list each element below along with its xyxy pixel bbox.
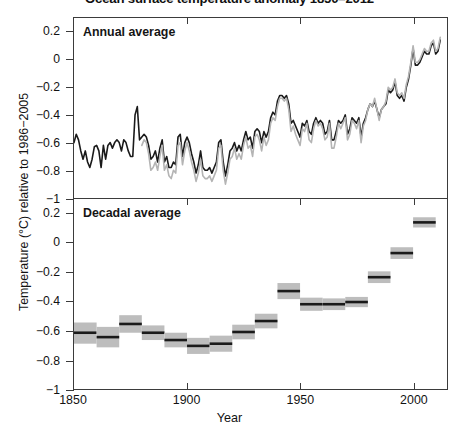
x-axis-tick — [300, 17, 301, 24]
y-axis-tick-label: −0.2 — [0, 80, 60, 94]
chart-title: Ocean surface temperature anomaly 1850–2… — [0, 0, 459, 6]
x-axis-tick — [414, 198, 415, 205]
x-axis-tick — [73, 198, 74, 205]
y-axis-tick — [66, 115, 74, 116]
x-axis-tick — [300, 383, 301, 390]
x-axis-tick — [300, 198, 301, 205]
x-axis-tick — [187, 383, 188, 390]
y-axis-tick — [66, 242, 74, 243]
y-axis-tick — [66, 213, 74, 214]
x-axis-tick — [73, 17, 74, 24]
y-axis-tick — [66, 390, 74, 391]
annual-average-plot — [74, 18, 447, 198]
annual-series-dataset-light — [142, 37, 440, 184]
x-axis-tick-label: 1900 — [157, 393, 217, 407]
y-axis-tick-label: −1 — [0, 192, 60, 206]
y-axis-tick-label: 0.2 — [0, 206, 60, 220]
panel-annual-caption: Annual average — [83, 25, 175, 39]
y-axis-tick-label: 0 — [0, 235, 60, 249]
x-axis-tick — [414, 17, 415, 24]
y-axis-tick — [66, 361, 74, 362]
ocean-temperature-anomaly-figure: Ocean surface temperature anomaly 1850–2… — [0, 0, 459, 432]
x-axis-tick — [414, 383, 415, 390]
x-axis-tick — [187, 17, 188, 24]
x-axis-tick-label: 2000 — [384, 393, 444, 407]
y-axis-tick — [66, 272, 74, 273]
decadal-average-plot — [74, 199, 447, 389]
panel-decadal-average: Decadal average — [73, 198, 448, 390]
x-axis-label: Year — [0, 411, 459, 425]
y-axis-tick-label: −0.6 — [0, 136, 60, 150]
y-axis-tick-label: 0 — [0, 52, 60, 66]
y-axis-tick — [66, 171, 74, 172]
x-axis-tick — [187, 198, 188, 205]
y-axis-tick-label: −0.4 — [0, 294, 60, 308]
y-axis-tick-label: −0.2 — [0, 265, 60, 279]
y-axis-tick-label: −0.6 — [0, 324, 60, 338]
x-axis-tick — [73, 383, 74, 390]
y-axis-tick-label: 0.2 — [0, 24, 60, 38]
y-axis-tick — [66, 87, 74, 88]
x-axis-tick-label: 1850 — [43, 393, 103, 407]
panel-annual-average: Annual average — [73, 17, 448, 199]
y-axis-tick-label: −0.8 — [0, 164, 60, 178]
x-axis-tick-label: 1950 — [270, 393, 330, 407]
annual-series-dataset-dark — [74, 40, 440, 176]
y-axis-tick — [66, 59, 74, 60]
y-axis-tick-label: −0.8 — [0, 354, 60, 368]
y-axis-tick — [66, 301, 74, 302]
y-axis-tick-label: −0.4 — [0, 108, 60, 122]
y-axis-tick — [66, 31, 74, 32]
y-axis-tick — [66, 143, 74, 144]
y-axis-tick — [66, 331, 74, 332]
panel-decadal-caption: Decadal average — [83, 206, 181, 220]
